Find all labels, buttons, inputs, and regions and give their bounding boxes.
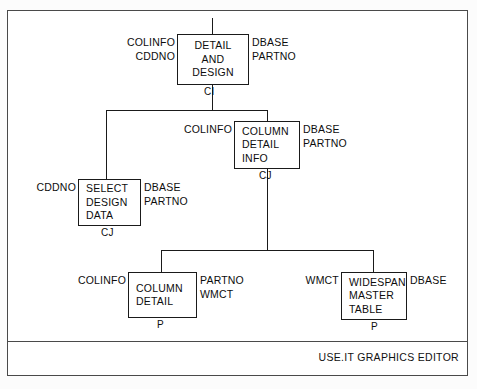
connector-fork-level1-right-drop <box>267 110 268 121</box>
node-line: WIDESPAN <box>349 276 406 290</box>
input-label-line: COLINFO <box>110 36 175 50</box>
output-label-line: PARTNO <box>200 274 244 288</box>
output-label-line: DBASE <box>410 274 447 288</box>
node-line: COLUMN <box>136 282 196 296</box>
node-line: AND <box>202 53 225 67</box>
connector-fork-level2-left-drop <box>161 250 162 272</box>
connector-fork-level2-bar <box>161 250 374 251</box>
connector-fork-level1-bar <box>106 110 268 111</box>
control-letter-detail-and-design: CI <box>204 86 214 97</box>
input-label-line: CDDNO <box>24 181 76 195</box>
output-label-column-detail: PARTNO WMCT <box>200 274 244 301</box>
connector-fork-level1-left-drop <box>106 110 107 179</box>
output-label-line: PARTNO <box>252 50 296 64</box>
node-line: TABLE <box>349 303 406 317</box>
node-line: DESIGN <box>86 196 140 210</box>
footer-bar: USE.IT GRAPHICS EDITOR <box>7 341 468 376</box>
input-label-column-detail-info: COLINFO <box>168 123 232 137</box>
input-label-line: CDDNO <box>110 50 175 64</box>
node-line: DETAIL <box>136 295 196 309</box>
input-label-line: COLINFO <box>62 274 126 288</box>
input-label-column-detail: COLINFO <box>62 274 126 288</box>
output-label-widespan-master-table: DBASE <box>410 274 447 288</box>
node-column-detail[interactable]: COLUMN DETAIL <box>128 272 197 318</box>
output-label-line: PARTNO <box>303 137 347 151</box>
node-detail-and-design[interactable]: DETAIL AND DESIGN <box>177 34 249 85</box>
control-letter-column-detail-info: CJ <box>259 170 272 181</box>
node-line: DATA <box>86 209 140 223</box>
output-label-line: DBASE <box>144 181 188 195</box>
input-label-widespan-master-table: WMCT <box>285 274 339 288</box>
output-label-select-design-data: DBASE PARTNO <box>144 181 188 208</box>
node-widespan-master-table[interactable]: WIDESPAN MASTER TABLE <box>341 272 407 320</box>
output-label-line: DBASE <box>252 36 296 50</box>
node-select-design-data[interactable]: SELECT DESIGN DATA <box>78 179 141 226</box>
node-line: DESIGN <box>192 66 233 80</box>
control-letter-widespan-master-table: P <box>371 321 378 332</box>
node-line: INFO <box>242 152 299 166</box>
node-line: MASTER <box>349 289 406 303</box>
node-column-detail-info[interactable]: COLUMN DETAIL INFO <box>234 121 300 169</box>
input-label-line: WMCT <box>285 274 339 288</box>
output-label-line: WMCT <box>200 288 244 302</box>
output-label-column-detail-info: DBASE PARTNO <box>303 123 347 150</box>
input-label-select-design-data: CDDNO <box>24 181 76 195</box>
control-letter-column-detail: P <box>157 319 164 330</box>
node-line: COLUMN <box>242 125 299 139</box>
node-line: DETAIL <box>242 138 299 152</box>
output-label-line: DBASE <box>303 123 347 137</box>
footer-title: USE.IT GRAPHICS EDITOR <box>319 351 459 363</box>
connector-column-detail-info-down <box>267 169 268 250</box>
connector-fork-level2-right-drop <box>373 250 374 272</box>
diagram-canvas: DETAIL AND DESIGN COLINFO CDDNO DBASE PA… <box>0 0 477 389</box>
output-label-detail-and-design: DBASE PARTNO <box>252 36 296 63</box>
node-line: SELECT <box>86 182 140 196</box>
connector-root-stem <box>212 18 213 34</box>
input-label-line: COLINFO <box>168 123 232 137</box>
input-label-detail-and-design: COLINFO CDDNO <box>110 36 175 63</box>
control-letter-select-design-data: CJ <box>101 227 114 238</box>
node-line: DETAIL <box>194 39 231 53</box>
output-label-line: PARTNO <box>144 195 188 209</box>
